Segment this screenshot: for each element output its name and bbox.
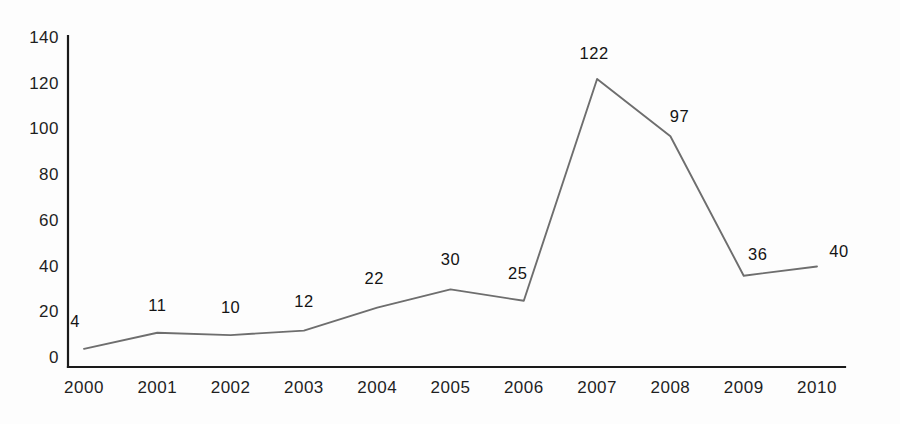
series-group xyxy=(84,79,817,349)
x-tick-label-2002: 2002 xyxy=(211,378,251,398)
y-tick-label-140: 140 xyxy=(29,28,59,48)
point-value-label-2003: 12 xyxy=(294,291,313,310)
point-value-label-2004: 22 xyxy=(365,268,384,287)
point-value-label-2005: 30 xyxy=(441,250,460,269)
line-chart: 020406080100120140 200020012002200320042… xyxy=(0,0,900,424)
x-tick-label-2010: 2010 xyxy=(797,378,837,398)
point-value-label-2008: 97 xyxy=(670,107,689,126)
x-tick-label-2001: 2001 xyxy=(137,378,177,398)
y-tick-label-40: 40 xyxy=(39,257,59,277)
chart-plot-area xyxy=(0,0,900,424)
point-value-label-2002: 10 xyxy=(221,298,240,317)
x-tick-label-2009: 2009 xyxy=(724,378,764,398)
point-value-label-2000: 4 xyxy=(70,311,80,330)
x-tick-label-2006: 2006 xyxy=(504,378,544,398)
y-tick-label-80: 80 xyxy=(39,165,59,185)
x-tick-label-2004: 2004 xyxy=(357,378,397,398)
data-series-line xyxy=(84,79,817,349)
y-tick-label-0: 0 xyxy=(49,348,59,368)
point-value-label-2010: 40 xyxy=(829,241,848,260)
y-tick-label-60: 60 xyxy=(39,211,59,231)
point-value-label-2006: 25 xyxy=(508,263,527,282)
point-value-label-2007: 122 xyxy=(580,43,609,62)
x-tick-label-2008: 2008 xyxy=(650,378,690,398)
axes-group xyxy=(68,36,845,367)
point-value-label-2009: 36 xyxy=(748,244,767,263)
x-tick-label-2003: 2003 xyxy=(284,378,324,398)
x-tick-label-2007: 2007 xyxy=(577,378,617,398)
y-tick-label-120: 120 xyxy=(29,74,59,94)
x-tick-label-2005: 2005 xyxy=(431,378,471,398)
x-tick-label-2000: 2000 xyxy=(64,378,104,398)
y-tick-label-100: 100 xyxy=(29,119,59,139)
y-tick-label-20: 20 xyxy=(39,302,59,322)
point-value-label-2001: 11 xyxy=(148,295,166,314)
